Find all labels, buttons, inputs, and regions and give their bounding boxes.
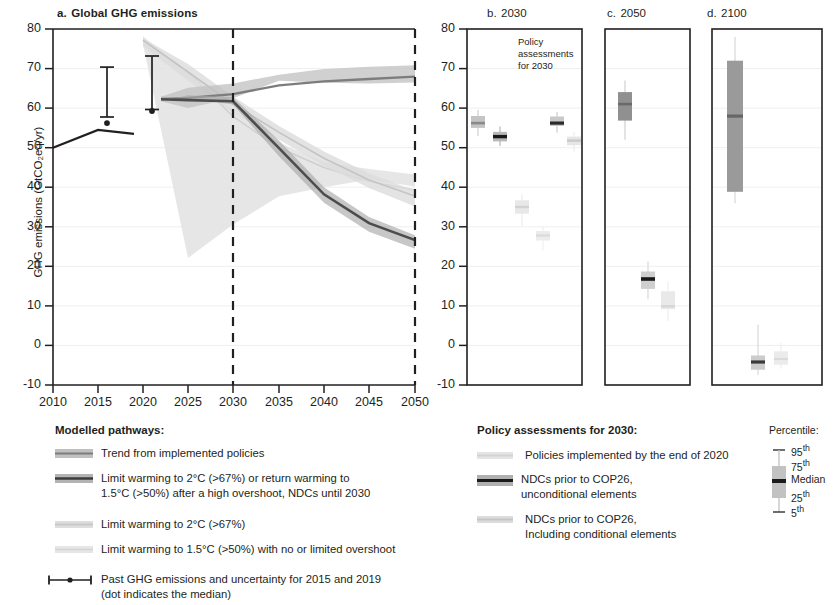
ytick-70: 70: [0, 60, 41, 74]
percentile-value-95: 95: [791, 446, 803, 458]
panel-b-note-line-3: for 2030: [518, 60, 580, 72]
legend-label-ndc-uncond: NDCs prior to COP26, unconditional eleme…: [521, 472, 771, 501]
ytick-b-neg10: -10: [414, 377, 455, 391]
box-b-3: [515, 194, 529, 226]
ytick-b-80: 80: [414, 21, 455, 35]
ytick-10: 10: [0, 298, 41, 312]
box-b-5: [550, 112, 564, 133]
ytick-b-0: 0: [414, 337, 455, 351]
percentile-label-5: 5th: [791, 504, 804, 519]
legend-swatch-ndc-cond-icon: [477, 514, 513, 526]
box-c-2: [641, 262, 655, 300]
panel-c-plot: [605, 29, 690, 385]
legend-label-policies: Trend from implemented policies: [101, 446, 451, 461]
percentile-label-95: 95th: [791, 443, 810, 458]
ytick-b-20: 20: [414, 258, 455, 272]
panel-a-plot: [45, 29, 415, 393]
box-d-1: [727, 37, 743, 203]
box-c-3: [661, 281, 675, 321]
panel-c-gridlines: [605, 69, 690, 346]
legend-policy-heading: Policy assessments for 2030:: [477, 424, 767, 436]
ytick-b-50: 50: [414, 139, 455, 153]
legend-pathways-heading: Modelled pathways:: [55, 424, 455, 436]
legend-percentile-heading: Percentile:: [769, 424, 837, 436]
panel-b-note-line-2: assessments: [518, 48, 580, 60]
box-d-2: [751, 325, 765, 375]
percentile-value-25: 25: [791, 492, 803, 504]
legend-label-15c: Limit warming to 1.5°C (>50%) with no or…: [101, 542, 471, 557]
legend-swatch-policies-icon: [55, 448, 93, 460]
ytick-0: 0: [0, 337, 41, 351]
percentile-sup-5: th: [797, 504, 804, 514]
box-b-4: [536, 227, 550, 251]
historical-line: [53, 130, 134, 148]
ytick-80: 80: [0, 21, 41, 35]
ytick-50: 50: [0, 139, 41, 153]
percentile-value-75: 75: [791, 461, 803, 473]
ytick-b-30: 30: [414, 219, 455, 233]
panel-d-boxes: [727, 37, 788, 375]
ytick-30: 30: [0, 219, 41, 233]
percentile-label-25: 25th: [791, 489, 810, 504]
ytick-b-70: 70: [414, 60, 455, 74]
percentile-sup-25: th: [803, 489, 810, 499]
legend-swatch-ndc2030-icon: [55, 473, 93, 485]
box-c-1: [618, 81, 632, 140]
box-b-2: [493, 127, 507, 147]
percentile-label-median: Median: [791, 473, 825, 485]
ytick-b-40: 40: [414, 179, 455, 193]
legend-label-ndc2030: Limit warming to 2°C (>67%) or return wa…: [101, 471, 461, 500]
panel-b-note-line-1: Policy: [518, 36, 580, 48]
legend-swatch-errorbar-icon: [45, 574, 95, 586]
legend-swatch-15c-icon: [55, 544, 93, 556]
percentile-sup-75: th: [803, 458, 810, 468]
panel-c-boxes: [618, 81, 675, 321]
panel-b-boxes: [471, 110, 581, 250]
panel-a-xticks: [53, 385, 415, 393]
ytick-neg10: -10: [0, 377, 41, 391]
panel-a-series-group: [143, 36, 415, 258]
ytick-b-60: 60: [414, 100, 455, 114]
ytick-40: 40: [0, 179, 41, 193]
box-b-1: [471, 110, 485, 136]
legend-swatch-ndc-uncond-icon: [477, 474, 513, 488]
panel-b-note: Policy assessments for 2030: [518, 36, 580, 72]
xtick-2050: 2050: [385, 395, 445, 409]
percentile-label-75: 75th: [791, 458, 810, 473]
box-b-6: [567, 132, 581, 151]
legend-label-policies-2020: Policies implemented by the end of 2020: [525, 448, 775, 463]
ytick-20: 20: [0, 258, 41, 272]
uncertainty-marker-2015: [100, 67, 114, 126]
panel-d-plot: [712, 29, 822, 385]
panel-c-frame: [605, 29, 690, 385]
percentile-box-icon: [769, 444, 791, 520]
panel-b-plot: [459, 29, 582, 385]
percentile-sup-95: th: [803, 443, 810, 453]
legend-label-2c: Limit warming to 2°C (>67%): [101, 517, 461, 532]
panel-b-yticks: [459, 29, 467, 385]
legend-swatch-policies-2020-icon: [477, 450, 513, 462]
ytick-b-10: 10: [414, 298, 455, 312]
legend-label-ndc-cond: NDCs prior to COP26, Including condition…: [525, 512, 775, 541]
legend-policy-assessments: Policy assessments for 2030: Policies im…: [477, 424, 767, 436]
legend-swatch-2c-icon: [55, 519, 93, 531]
legend-percentile: Percentile: 95th 75th Median 25th 5th: [769, 424, 837, 436]
box-d-3: [774, 343, 788, 369]
panel-a-yticks: [45, 29, 53, 385]
legend-modelled-pathways: Modelled pathways: Trend from implemente…: [55, 424, 455, 436]
legend-label-past-emissions: Past GHG emissions and uncertainty for 2…: [101, 572, 461, 601]
ytick-60: 60: [0, 100, 41, 114]
